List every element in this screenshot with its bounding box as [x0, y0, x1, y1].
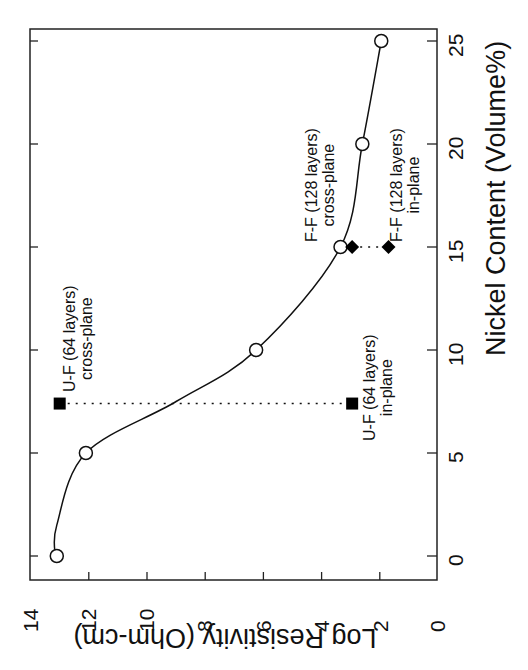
- fit-curve: [54, 41, 381, 556]
- annotation-uf-cross-plane: U-F (64 layers) cross-plane: [62, 285, 96, 392]
- open-circle-marker: [375, 35, 388, 48]
- data-markers: [50, 35, 395, 563]
- annotation-ff-cross-plane: F-F (128 layers) cross-plane: [304, 128, 338, 242]
- value-tick-label: 0: [427, 620, 449, 632]
- filled-square-marker: [346, 398, 358, 410]
- filled-diamond-marker: [382, 240, 396, 254]
- open-circle-marker: [50, 550, 63, 563]
- nickel-tick-label: 5: [445, 451, 467, 463]
- open-circle-marker: [250, 344, 263, 357]
- annotation-line: cross-plane: [321, 128, 338, 242]
- x-axis-title: Nickel Content (Volume%): [482, 41, 510, 356]
- annotation-uf-in-plane: U-F (64 layers) in-plane: [362, 334, 396, 441]
- resistivity-chart: 0 2 4 6 8 10 12 14 0 5 10 15 20 25 Nicke…: [0, 0, 528, 670]
- nickel-tick-label: 10: [445, 343, 467, 366]
- annotation-line: U-F (64 layers): [362, 334, 379, 441]
- annotation-line: in-plane: [379, 334, 396, 441]
- value-tick-label: 14: [20, 609, 42, 632]
- value-axis-ticks: [89, 572, 380, 580]
- nickel-tick-label: 0: [445, 554, 467, 566]
- y-axis-title-upside: Log Resistivity (Ohm-cm): [70, 622, 380, 653]
- annotation-line: U-F (64 layers): [62, 285, 79, 392]
- annotation-line: F-F (128 layers): [389, 128, 406, 242]
- nickel-tick-label: 25: [445, 34, 467, 57]
- annotation-line: in-plane: [406, 128, 423, 242]
- nickel-tick-label: 20: [445, 137, 467, 160]
- open-circle-marker: [356, 138, 369, 151]
- nickel-tick-label: 15: [445, 240, 467, 263]
- open-circle-marker: [334, 241, 347, 254]
- annotation-line: cross-plane: [79, 285, 96, 392]
- annotation-ff-in-plane: F-F (128 layers) in-plane: [389, 128, 423, 242]
- dotted-connectors: [60, 247, 389, 404]
- annotation-line: F-F (128 layers): [304, 128, 321, 242]
- filled-square-marker: [54, 398, 66, 410]
- open-circle-marker: [79, 447, 92, 460]
- filled-diamond-marker: [345, 240, 359, 254]
